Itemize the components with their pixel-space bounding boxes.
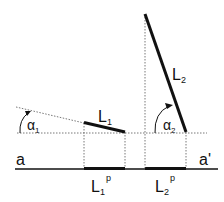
angle-label-1: α1: [27, 117, 40, 135]
segment-label-l2: L2: [172, 66, 186, 85]
projection-diagram: α1 α2 L1 L2 a a' L1p L2p: [0, 0, 224, 202]
projection-label-l1: L1p: [91, 173, 111, 197]
arrow-head-icon: [165, 103, 173, 109]
baseline-label-a: a: [16, 151, 25, 168]
segment-label-l1: L1: [98, 108, 112, 127]
angle-label-2: α2: [163, 117, 176, 135]
projection-label-l2: L2p: [155, 173, 175, 197]
baseline-label-a-prime: a': [199, 151, 211, 168]
